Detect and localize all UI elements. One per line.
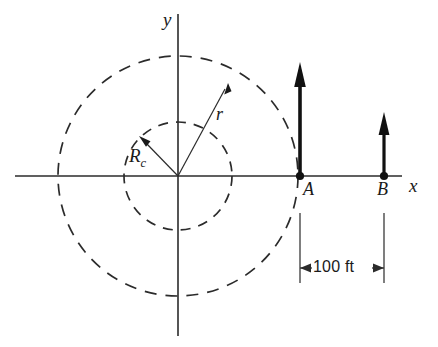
x-axis-label: x — [409, 176, 417, 195]
radius-r-arrowhead — [224, 83, 231, 95]
vector-arrow-a-head — [294, 62, 306, 87]
dimension-label: 100 ft — [313, 258, 354, 276]
point-b-label: B — [377, 180, 388, 198]
point-a-label: A — [303, 180, 314, 198]
y-axis-label: y — [163, 10, 171, 29]
diagram-svg — [0, 0, 438, 347]
radius-rc-label-subscript: c — [141, 156, 147, 170]
radius-rc-label-base: R — [129, 145, 141, 166]
radius-r-line — [178, 89, 225, 176]
radius-rc-line — [146, 143, 178, 176]
vector-arrow-b-head — [379, 112, 390, 135]
radius-r-label: r — [216, 105, 223, 123]
figure-canvas: y x A B r Rc 100 ft — [0, 0, 438, 347]
dimension-arrowhead-left — [300, 263, 311, 272]
dimension-arrowhead-right — [373, 263, 384, 272]
radius-rc-label: Rc — [129, 146, 146, 169]
